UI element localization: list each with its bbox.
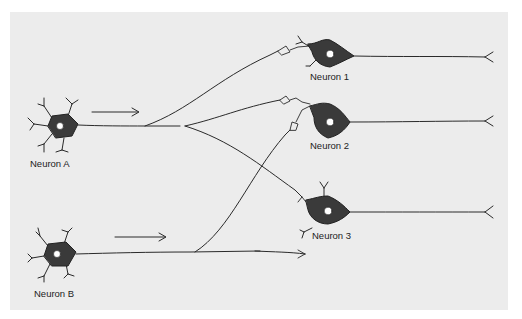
neuron-2-axon-terminal bbox=[485, 116, 493, 126]
neuron-1-axon-terminal bbox=[485, 52, 493, 62]
neuron-1 bbox=[296, 36, 493, 67]
neuron-a-branches bbox=[145, 51, 302, 197]
neuron-3-label: Neuron 3 bbox=[312, 230, 351, 241]
neuron-a bbox=[28, 98, 180, 152]
arrow-b-right-icon bbox=[115, 233, 166, 241]
neuron-2-nucleus bbox=[326, 118, 334, 126]
neuron-b bbox=[28, 228, 260, 282]
neuron-3-axon-terminal bbox=[485, 206, 493, 218]
neuron-1-nucleus bbox=[326, 50, 334, 58]
neuron-b-branches bbox=[195, 130, 305, 254]
neural-circuit-diagram bbox=[0, 0, 522, 319]
neuron-a-label: Neuron A bbox=[30, 158, 70, 169]
neuron-b-axon bbox=[76, 251, 260, 254]
synaptic-terminals bbox=[278, 46, 310, 258]
neuron-1-label: Neuron 1 bbox=[310, 71, 349, 82]
neuron-1-axon bbox=[354, 56, 485, 57]
neuron-2-label: Neuron 2 bbox=[310, 140, 349, 151]
neuron-b-nucleus bbox=[54, 251, 61, 258]
neuron-2-axon bbox=[350, 121, 485, 122]
neuron-a-axon bbox=[78, 125, 180, 126]
neuron-b-label: Neuron B bbox=[34, 288, 74, 299]
neuron-2 bbox=[310, 103, 493, 138]
arrow-a-right-icon bbox=[92, 108, 139, 116]
neuron-3-nucleus bbox=[324, 207, 332, 215]
neuron-a-nucleus bbox=[57, 123, 64, 130]
